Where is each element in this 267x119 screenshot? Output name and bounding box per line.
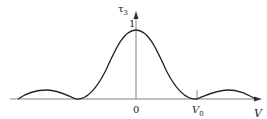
origin-tick-label: 0 <box>133 105 139 115</box>
v0-tick-label: V0 <box>192 105 204 118</box>
tau3-curve <box>18 30 256 99</box>
x-axis-label: V <box>254 108 262 119</box>
chart-figure: τ3 1 0 V0 V <box>0 0 267 119</box>
y-axis-label: τ3 <box>118 4 128 17</box>
peak-value-label: 1 <box>129 19 135 29</box>
